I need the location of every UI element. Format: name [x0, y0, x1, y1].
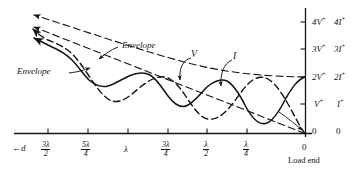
y-label-2i-text: 2I — [334, 72, 342, 82]
x-label-lambda-4: λ 4 — [243, 140, 249, 158]
y-label-2i: 2I+ — [334, 71, 345, 82]
y-label-3v-text: 3V — [312, 44, 322, 54]
x-label-lambda: λ — [124, 145, 128, 154]
y-label-4i-sup: + — [342, 15, 346, 22]
y-label-1i: I+ — [337, 98, 344, 109]
y-label-zero-v: 0 — [312, 127, 317, 136]
load-end-label: Load end — [288, 156, 320, 165]
y-label-1v-sup: + — [320, 97, 324, 104]
y-label-3i: 3I+ — [334, 43, 345, 54]
y-label-4v-text: 4V — [312, 17, 322, 27]
x-label-lambda-4-den: 4 — [243, 149, 249, 158]
y-label-3v: 3V+ — [312, 43, 326, 54]
y-label-4i-text: 4I — [334, 17, 342, 27]
x-label-lambda-2-den: 2 — [203, 149, 209, 158]
x-label-3lambda-2-num: 3λ — [41, 141, 50, 149]
x-label-lambda-2-frac: λ 2 — [203, 141, 209, 158]
x-label-5lambda-4-num: 5λ — [81, 141, 90, 149]
y-label-2v-sup: + — [322, 70, 326, 77]
voltage-curve-label: V — [191, 50, 197, 60]
envelope-upper-leader — [99, 47, 118, 59]
x-label-origin: 0 — [302, 143, 307, 152]
x-label-lambda-2: λ 2 — [203, 140, 209, 158]
current-label-leader — [221, 60, 232, 86]
y-label-1v: V+ — [314, 98, 323, 109]
plot-canvas — [0, 0, 354, 169]
y-label-2v: 2V+ — [312, 71, 326, 82]
axis-lines — [14, 8, 312, 137]
x-direction-label: ←d — [12, 144, 26, 153]
standing-wave-figure: Envelope Envelope V I 4V+ 3V+ 2V+ V+ 0 4… — [0, 0, 354, 169]
x-label-5lambda-4-den: 4 — [81, 149, 90, 158]
y-label-2v-text: 2V — [312, 72, 322, 82]
x-label-3lambda-4-den: 4 — [161, 149, 170, 158]
x-label-3lambda-4-frac: 3λ 4 — [161, 141, 170, 158]
envelope-upper-label: Envelope — [122, 41, 155, 50]
envelope-lower-label: Envelope — [17, 67, 50, 76]
current-curve-label: I — [233, 52, 236, 62]
x-label-lambda-4-num: λ — [243, 141, 249, 149]
y-label-1i-sup: + — [340, 97, 344, 104]
x-label-3lambda-2: 3λ 2 — [41, 140, 50, 158]
x-label-3lambda-2-den: 2 — [41, 149, 50, 158]
y-label-2i-sup: + — [342, 70, 346, 77]
envelope-lower-line — [34, 27, 305, 134]
y-label-zero-i: 0 — [336, 127, 341, 136]
x-label-lambda-2-num: λ — [203, 141, 209, 149]
y-label-3i-text: 3I — [334, 44, 342, 54]
x-label-lambda-4-frac: λ 4 — [243, 141, 249, 158]
y-label-4v: 4V+ — [312, 16, 326, 27]
envelope-upper-line — [34, 15, 305, 77]
x-tick-marks — [48, 129, 247, 134]
x-label-3lambda-4: 3λ 4 — [161, 140, 170, 158]
x-label-3lambda-2-frac: 3λ 2 — [41, 141, 50, 158]
x-label-5lambda-4: 5λ 4 — [81, 140, 90, 158]
y-label-4v-sup: + — [322, 15, 326, 22]
x-label-5lambda-4-frac: 5λ 4 — [81, 141, 90, 158]
y-tick-marks — [301, 22, 306, 104]
y-label-3i-sup: + — [342, 42, 346, 49]
y-label-4i: 4I+ — [334, 16, 345, 27]
y-label-3v-sup: + — [322, 42, 326, 49]
x-label-3lambda-4-num: 3λ — [161, 141, 170, 149]
